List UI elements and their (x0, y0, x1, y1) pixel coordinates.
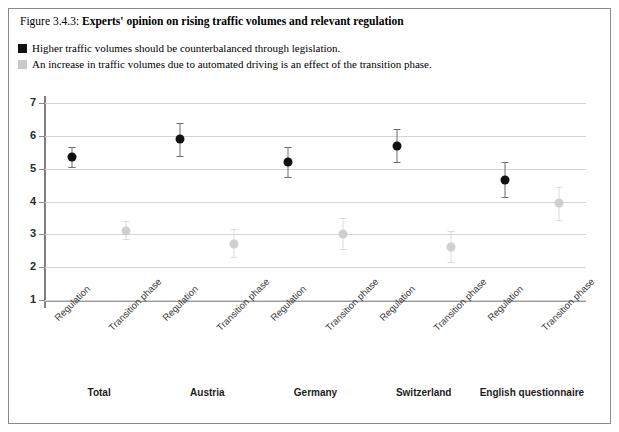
x-tick-label: Transition phase (215, 276, 272, 333)
error-bar-cap (393, 162, 400, 163)
y-tick-mark (39, 267, 45, 268)
y-tick-mark (39, 300, 45, 301)
data-point (284, 158, 293, 167)
y-tick-mark (39, 234, 45, 235)
data-point (68, 153, 77, 162)
group-label: English questionnaire (480, 387, 584, 398)
data-point (122, 227, 131, 236)
error-bar-cap (69, 147, 76, 148)
y-tick-mark (39, 103, 45, 104)
group-label: Germany (294, 387, 337, 398)
y-tick-label: 3 (6, 227, 36, 239)
error-bar-cap (177, 156, 184, 157)
data-point (446, 243, 455, 252)
data-point (554, 199, 563, 208)
data-point (338, 230, 347, 239)
error-bar-cap (123, 239, 130, 240)
error-bar-cap (177, 123, 184, 124)
x-tick-label: Regulation (52, 283, 92, 323)
x-tick-label: Transition phase (106, 276, 163, 333)
error-bar-cap (555, 187, 562, 188)
error-bar-cap (285, 177, 292, 178)
x-tick-label: Regulation (160, 283, 200, 323)
error-bar-cap (231, 229, 238, 230)
error-bar-cap (447, 262, 454, 263)
error-bar-cap (447, 231, 454, 232)
figure-page: Figure 3.4.3: Experts' opinion on rising… (0, 0, 619, 432)
y-tick-label: 7 (6, 96, 36, 108)
gridline (45, 103, 586, 104)
group-label: Total (88, 387, 111, 398)
x-tick-label: Regulation (377, 283, 417, 323)
y-tick-label: 2 (6, 260, 36, 272)
x-tick-label: Transition phase (323, 276, 380, 333)
error-bar-cap (339, 249, 346, 250)
gridline (45, 267, 586, 268)
gridline (45, 136, 586, 137)
group-label: Austria (190, 387, 224, 398)
error-bar-cap (339, 218, 346, 219)
error-bar-cap (501, 162, 508, 163)
error-bar-cap (123, 221, 130, 222)
y-tick-label: 5 (6, 162, 36, 174)
y-tick-label: 6 (6, 129, 36, 141)
y-tick-mark (39, 169, 45, 170)
error-bar-cap (231, 257, 238, 258)
data-point (500, 176, 509, 185)
error-bar-cap (555, 220, 562, 221)
data-point (230, 240, 239, 249)
error-bar-cap (285, 147, 292, 148)
x-tick-label: Regulation (485, 283, 525, 323)
y-tick-mark (39, 202, 45, 203)
x-tick-label: Transition phase (431, 276, 488, 333)
x-tick-label: Regulation (269, 283, 309, 323)
gridline (45, 202, 586, 203)
x-tick-label: Transition phase (539, 276, 596, 333)
error-bar-cap (501, 197, 508, 198)
y-tick-mark (39, 136, 45, 137)
error-bar-cap (393, 129, 400, 130)
data-point (392, 141, 401, 150)
group-label: Switzerland (396, 387, 452, 398)
error-bar-cap (69, 167, 76, 168)
data-point (176, 135, 185, 144)
y-tick-label: 1 (6, 293, 36, 305)
y-tick-label: 4 (6, 195, 36, 207)
chart-plot: 1234567 RegulationTransition phaseRegula… (0, 0, 619, 432)
